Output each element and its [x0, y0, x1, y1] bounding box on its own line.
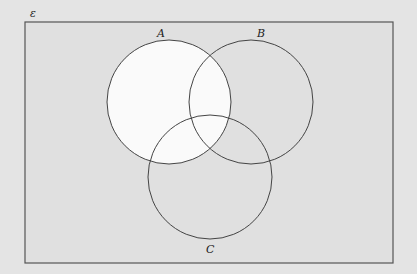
universal-set-label: ε	[30, 7, 36, 20]
set-a-label: A	[156, 27, 165, 40]
set-b-label: B	[256, 27, 265, 40]
set-a-shading	[107, 40, 231, 164]
set-c-label: C	[206, 243, 215, 256]
venn-diagram: ε A B C	[0, 0, 417, 274]
